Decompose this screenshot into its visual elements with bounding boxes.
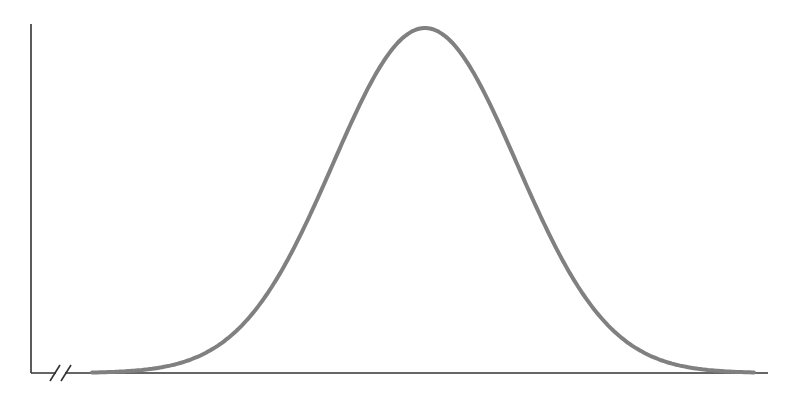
bell-curve-diagram [0,0,794,399]
normal-distribution-curve [92,28,754,373]
